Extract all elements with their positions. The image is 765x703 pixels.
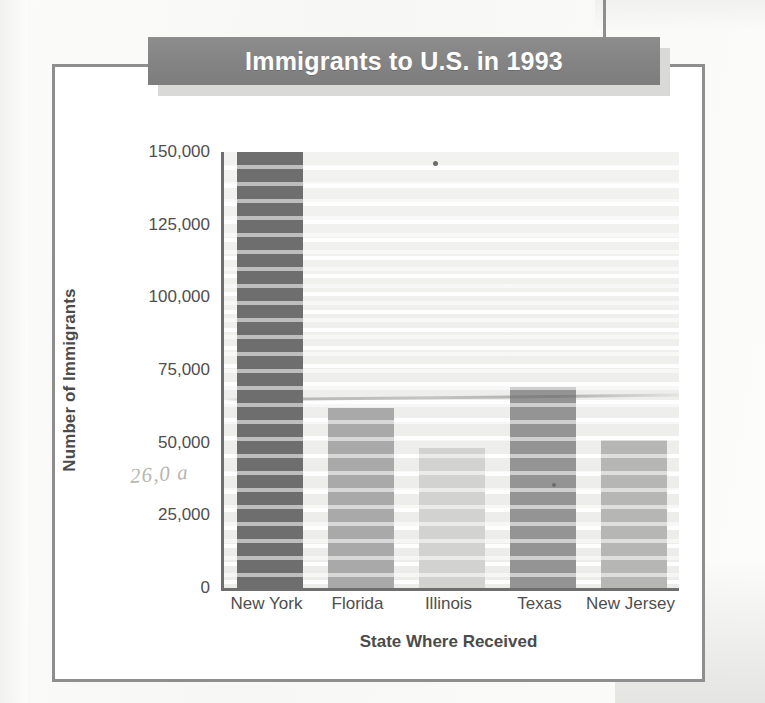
y-axis-tick-label: 125,000 bbox=[149, 215, 210, 235]
y-axis-tick-labels: 025,00050,00075,000100,000125,000150,000 bbox=[112, 152, 210, 588]
bar bbox=[419, 448, 485, 588]
y-axis-tick-label: 75,000 bbox=[158, 360, 210, 380]
bar-slot bbox=[497, 152, 588, 588]
y-axis-tick-label: 25,000 bbox=[158, 505, 210, 525]
y-axis-title: Number of Immigrants bbox=[60, 250, 80, 510]
bar-slot bbox=[406, 152, 497, 588]
y-axis-tick-label: 50,000 bbox=[158, 433, 210, 453]
plot-area bbox=[221, 152, 679, 591]
x-axis-tick-label: Texas bbox=[494, 594, 585, 614]
y-axis-tick-label: 150,000 bbox=[149, 142, 210, 162]
bar-slot bbox=[315, 152, 406, 588]
bar-series bbox=[224, 152, 679, 588]
x-axis-title: State Where Received bbox=[221, 632, 676, 652]
handwritten-annotation: 26,0 a bbox=[129, 460, 189, 489]
bar-chart: Number of Immigrants 025,00050,00075,000… bbox=[0, 0, 765, 703]
x-axis-tick-label: Florida bbox=[312, 594, 403, 614]
y-axis-tick-label: 0 bbox=[201, 578, 210, 598]
bar-slot bbox=[588, 152, 679, 588]
x-axis-tick-label: Illinois bbox=[403, 594, 494, 614]
x-axis-tick-label: New Jersey bbox=[585, 594, 676, 614]
bar bbox=[328, 408, 394, 588]
bar bbox=[237, 152, 303, 588]
bar bbox=[510, 387, 576, 588]
bar-slot bbox=[224, 152, 315, 588]
y-axis-tick-label: 100,000 bbox=[149, 287, 210, 307]
bar bbox=[601, 440, 667, 588]
x-axis-tick-labels: New YorkFloridaIllinoisTexasNew Jersey bbox=[221, 594, 676, 614]
x-axis-tick-label: New York bbox=[221, 594, 312, 614]
